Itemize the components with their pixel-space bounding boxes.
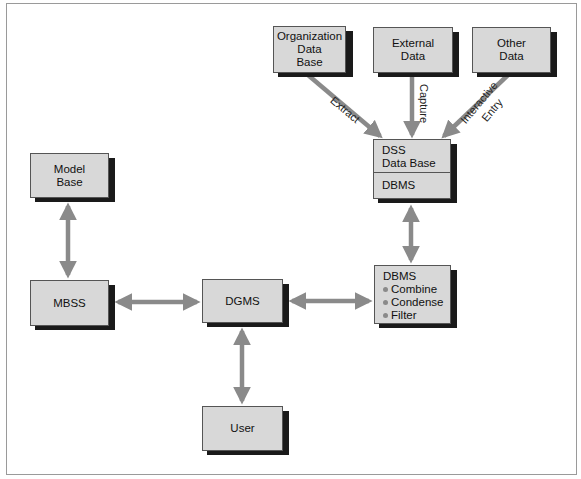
- node-label: User: [230, 422, 254, 435]
- node-external-data: External Data: [373, 27, 453, 73]
- node-label: DGMS: [225, 295, 260, 308]
- bullet-item: Combine: [383, 283, 450, 296]
- node-label: External: [392, 37, 434, 50]
- node-dgms: DGMS: [202, 279, 283, 323]
- node-dss-data-base: DSS Data Base DBMS: [373, 139, 451, 199]
- node-label: Data: [297, 43, 321, 56]
- bullet-label: Combine: [391, 283, 437, 296]
- node-organization-data-base: Organization Data Base: [273, 26, 346, 73]
- node-dbms-processing: DBMS Combine Condense Filter: [374, 265, 451, 324]
- bullet-dot-icon: [383, 287, 388, 292]
- node-label: Base: [56, 176, 82, 189]
- node-label: Data Base: [382, 157, 450, 170]
- bullet-item: Condense: [383, 296, 450, 309]
- node-label: Organization: [277, 30, 342, 43]
- bullet-label: Condense: [391, 296, 443, 309]
- node-label: DSS: [382, 144, 450, 157]
- node-model-base: Model Base: [30, 153, 109, 198]
- node-label: Data: [499, 50, 523, 63]
- dss-data-base-section: DSS Data Base: [374, 140, 450, 173]
- node-label: Data: [401, 50, 425, 63]
- node-other-data: Other Data: [472, 27, 551, 73]
- edge-label-capture: Capture: [418, 84, 430, 123]
- node-label: Model: [54, 163, 85, 176]
- node-label: Other: [497, 37, 526, 50]
- bullet-dot-icon: [383, 313, 388, 318]
- bullet-label: Filter: [391, 309, 417, 322]
- node-title: DBMS: [383, 270, 450, 283]
- node-mbss: MBSS: [30, 280, 109, 326]
- bullet-dot-icon: [383, 300, 388, 305]
- dss-dbms-section: DBMS: [374, 173, 450, 198]
- node-label: DBMS: [382, 179, 450, 192]
- node-user: User: [202, 406, 283, 451]
- bullet-item: Filter: [383, 309, 450, 322]
- node-label: Base: [296, 56, 322, 69]
- node-label: MBSS: [53, 297, 86, 310]
